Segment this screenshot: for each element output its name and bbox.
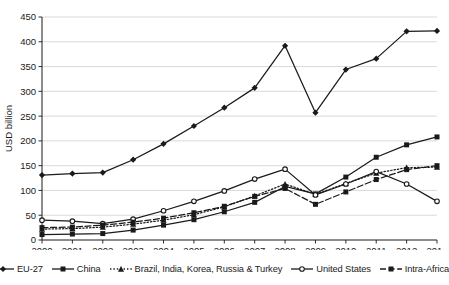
legend-label: China — [77, 264, 101, 274]
x-axis-tick-label: 2012 — [396, 245, 417, 251]
data-point-marker — [70, 232, 75, 237]
y-axis-tick-label: 200 — [20, 135, 36, 146]
series-4 — [40, 167, 440, 226]
data-point-marker — [100, 223, 105, 228]
series-line — [42, 167, 437, 229]
data-point-marker — [282, 181, 288, 187]
data-point-marker — [70, 219, 75, 224]
legend-label: Brazil, India, Korea, Russia & Turkey — [135, 264, 283, 274]
data-point-marker — [435, 163, 440, 168]
legend-label: EU-27 — [17, 264, 43, 274]
data-point-marker — [161, 216, 166, 221]
legend-label: United States — [316, 264, 371, 274]
legend-item-4[interactable]: United States — [291, 264, 371, 274]
data-point-marker — [222, 209, 227, 214]
x-axis-tick-label: 2004 — [153, 245, 174, 251]
series-line — [42, 137, 437, 235]
y-axis-tick-label: 400 — [20, 36, 36, 47]
y-axis-tick-label: 50 — [25, 210, 36, 221]
data-point-marker — [343, 175, 348, 180]
series-line — [42, 31, 437, 175]
legend-marker-square-icon — [52, 264, 74, 274]
data-point-marker — [343, 189, 348, 194]
legend-marker-square-icon — [380, 264, 402, 274]
data-point-marker — [435, 134, 440, 139]
data-point-marker — [313, 202, 318, 207]
y-axis-tick-label: 250 — [20, 111, 36, 122]
data-point-marker — [39, 172, 45, 178]
data-point-marker — [100, 170, 106, 176]
data-point-marker — [60, 266, 65, 271]
y-axis-tick-label: 350 — [20, 61, 36, 72]
data-point-marker — [0, 265, 6, 271]
legend-marker-triangle-icon — [110, 264, 132, 274]
y-axis-title: USD billion — [3, 105, 14, 152]
data-point-marker — [161, 208, 166, 213]
data-point-marker — [283, 167, 288, 172]
series-3 — [39, 164, 440, 232]
data-point-marker — [192, 199, 197, 204]
data-point-marker — [160, 141, 166, 147]
data-point-marker — [131, 228, 136, 233]
legend-label: Intra-Africa — [405, 264, 449, 274]
x-axis-tick-label: 2006 — [214, 245, 235, 251]
data-point-marker — [404, 182, 409, 187]
x-axis-tick-label: 2008 — [275, 245, 296, 251]
y-axis-tick-label: 300 — [20, 86, 36, 97]
data-point-marker — [435, 199, 440, 204]
data-point-marker — [344, 182, 349, 187]
data-point-marker — [191, 217, 196, 222]
data-point-marker — [131, 220, 136, 225]
data-point-marker — [434, 28, 440, 34]
x-axis-tick-label: 2009 — [305, 245, 326, 251]
y-axis-tick-label: 150 — [20, 160, 36, 171]
plot-area: 0501001502002503003504004502000200120022… — [0, 0, 441, 250]
data-point-marker — [191, 210, 196, 215]
data-point-marker — [252, 200, 257, 205]
data-point-marker — [221, 105, 227, 111]
legend-marker-circle-icon — [291, 264, 313, 274]
data-point-marker — [40, 225, 45, 230]
y-axis-tick-label: 100 — [20, 185, 36, 196]
x-axis-tick-label: 2000 — [31, 245, 52, 251]
x-axis-tick-label: 2001 — [62, 245, 83, 251]
y-axis-tick-label: 450 — [20, 11, 36, 22]
data-point-marker — [222, 204, 227, 209]
legend-item-2[interactable]: China — [52, 264, 101, 274]
data-point-marker — [222, 189, 227, 194]
data-point-marker — [40, 232, 45, 237]
series-2 — [40, 134, 440, 237]
data-point-marker — [404, 142, 409, 147]
data-point-marker — [191, 123, 197, 129]
data-point-marker — [69, 170, 75, 176]
data-point-marker — [70, 225, 75, 230]
data-point-marker — [40, 218, 45, 223]
data-point-marker — [388, 266, 393, 271]
legend-item-5[interactable]: Intra-Africa — [380, 264, 449, 274]
data-point-marker — [161, 223, 166, 228]
data-point-marker — [374, 155, 379, 160]
x-axis-tick-label: 2002 — [92, 245, 113, 251]
data-point-marker — [130, 157, 136, 163]
x-axis-tick-label: 2007 — [244, 245, 265, 251]
data-point-marker — [283, 186, 288, 191]
x-axis-tick-label: 2003 — [123, 245, 144, 251]
data-point-marker — [300, 266, 305, 271]
x-axis-tick-label: 2011 — [366, 245, 386, 251]
data-point-marker — [117, 265, 123, 271]
data-point-marker — [374, 169, 379, 174]
data-point-marker — [313, 193, 318, 198]
data-point-marker — [252, 194, 257, 199]
line-chart-svg: 0501001502002503003504004502000200120022… — [0, 0, 441, 250]
legend-item-3[interactable]: Brazil, India, Korea, Russia & Turkey — [110, 264, 283, 274]
x-axis-tick-label: 2010 — [335, 245, 356, 251]
x-axis-tick-label: 2005 — [183, 245, 204, 251]
data-point-marker — [374, 177, 379, 182]
data-point-marker — [252, 177, 257, 182]
data-point-marker — [100, 231, 105, 236]
legend-marker-diamond-icon — [0, 264, 14, 274]
legend-item-1[interactable]: EU-27 — [0, 264, 43, 274]
data-point-marker — [404, 167, 409, 172]
chart-legend: EU-27ChinaBrazil, India, Korea, Russia &… — [0, 252, 441, 285]
